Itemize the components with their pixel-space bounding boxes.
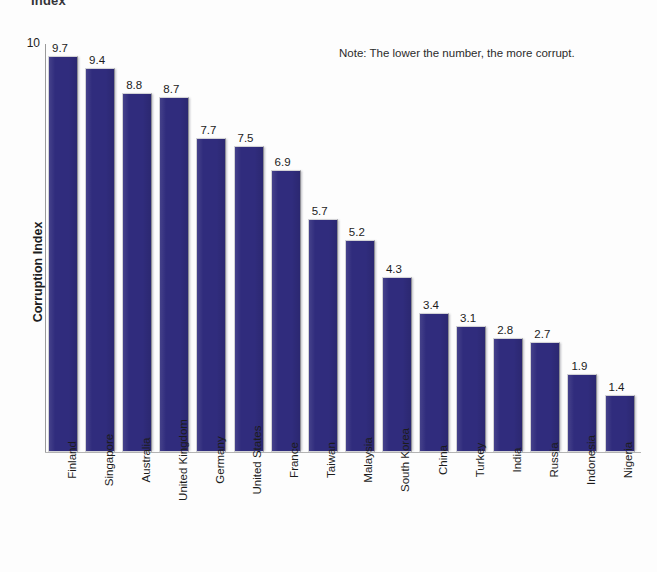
x-axis-label: Finland <box>66 441 78 479</box>
bar-slot: 3.4 <box>418 44 455 452</box>
x-axis-label: China <box>437 445 449 475</box>
bar-value-label: 1.4 <box>600 381 634 393</box>
bar-slot: 6.9 <box>270 44 307 452</box>
corruption-index-bar-chart: Index Note: The lower the number, the mo… <box>0 0 657 572</box>
bar-slot: 5.7 <box>307 44 344 452</box>
bar-shading <box>346 241 374 451</box>
y-axis-line <box>45 44 46 453</box>
x-axis-label-slot: Taiwan <box>307 456 344 572</box>
bar-slot: 5.2 <box>344 44 381 452</box>
chart-title: Index <box>31 0 66 8</box>
bar-value-label: 1.9 <box>562 360 596 372</box>
bar-value-label: 8.8 <box>117 79 151 91</box>
x-axis-label: United Kingdom <box>177 419 189 501</box>
bar[interactable] <box>122 93 152 452</box>
x-axis-label-slot: Malaysia <box>344 456 381 572</box>
bar-shading <box>309 220 337 451</box>
x-axis-label-slot: India <box>492 456 529 572</box>
bar-shading <box>197 139 225 451</box>
x-axis-label-slot: Finland <box>47 456 84 572</box>
bar-value-label: 2.8 <box>488 324 522 336</box>
x-axis-label: United States <box>251 425 263 494</box>
bar-shading <box>531 343 559 451</box>
bar-slot: 7.5 <box>233 44 270 452</box>
bar-slot: 3.1 <box>455 44 492 452</box>
x-axis-label: Germany <box>214 436 226 483</box>
x-axis-label-slot: Singapore <box>84 456 121 572</box>
x-axis-label: France <box>288 442 300 478</box>
x-axis-label: Australia <box>140 438 152 483</box>
bar-shading <box>235 147 263 451</box>
bar-shading <box>272 171 300 451</box>
bar-value-label: 7.5 <box>229 132 263 144</box>
bar-slot: 1.9 <box>566 44 603 452</box>
bar-value-label: 6.9 <box>266 156 300 168</box>
x-axis-label: Nigeria <box>622 442 634 478</box>
bar-value-label: 3.1 <box>451 312 485 324</box>
bar-slot: 1.4 <box>604 44 641 452</box>
x-axis-labels: FinlandSingaporeAustraliaUnited KingdomG… <box>47 456 641 572</box>
x-axis-label-slot: France <box>270 456 307 572</box>
bar-shading <box>123 94 151 451</box>
bar-shading <box>49 57 77 451</box>
bar-value-label: 5.2 <box>340 226 374 238</box>
bar-shading <box>494 339 522 451</box>
x-axis-label: Taiwan <box>325 442 337 478</box>
bar-slot: 8.8 <box>121 44 158 452</box>
bar-shading <box>420 314 448 451</box>
bar[interactable] <box>196 138 226 452</box>
bar-value-label: 9.4 <box>80 54 114 66</box>
bar-slot: 9.4 <box>84 44 121 452</box>
bar[interactable] <box>456 326 486 452</box>
bar[interactable] <box>308 219 338 452</box>
bar-shading <box>383 278 411 451</box>
bar-slot: 4.3 <box>381 44 418 452</box>
x-axis-label: Russia <box>548 442 560 477</box>
bar-value-label: 2.7 <box>525 328 559 340</box>
bar-value-label: 7.7 <box>191 124 225 136</box>
bar[interactable] <box>530 342 560 452</box>
bar[interactable] <box>345 240 375 452</box>
x-axis-label: India <box>511 448 523 473</box>
bar-shading <box>457 327 485 451</box>
x-axis-label: Turkey <box>474 443 486 478</box>
bar[interactable] <box>419 313 449 452</box>
x-axis-label-slot: Germany <box>195 456 232 572</box>
bar[interactable] <box>85 68 115 452</box>
x-axis-label-slot: United Kingdom <box>158 456 195 572</box>
x-axis-label: South Korea <box>399 428 411 492</box>
bar-slot: 2.7 <box>529 44 566 452</box>
x-axis-label-slot: China <box>418 456 455 572</box>
bar[interactable] <box>234 146 264 452</box>
x-axis-label-slot: South Korea <box>381 456 418 572</box>
bar[interactable] <box>382 277 412 452</box>
x-axis-label-slot: Russia <box>529 456 566 572</box>
x-axis-label-slot: Indonesia <box>566 456 603 572</box>
x-axis-label: Malaysia <box>362 437 374 482</box>
plot-area: 9.79.48.88.77.77.56.95.75.24.33.43.12.82… <box>47 44 641 452</box>
y-axis-tick-10: 10 <box>20 36 40 50</box>
x-axis-label: Singapore <box>103 434 115 486</box>
bar[interactable] <box>48 56 78 452</box>
x-axis-label-slot: United States <box>233 456 270 572</box>
bar-slot: 2.8 <box>492 44 529 452</box>
bar-slot: 9.7 <box>47 44 84 452</box>
x-axis-label-slot: Turkey <box>455 456 492 572</box>
x-axis-label-slot: Nigeria <box>604 456 641 572</box>
bar-value-label: 3.4 <box>414 299 448 311</box>
bar-slot: 7.7 <box>195 44 232 452</box>
bar-value-label: 4.3 <box>377 263 411 275</box>
y-axis-title: Corruption Index <box>31 202 45 342</box>
bar-value-label: 9.7 <box>43 42 77 54</box>
bar[interactable] <box>493 338 523 452</box>
x-axis-label: Indonesia <box>585 435 597 485</box>
bar-value-label: 8.7 <box>154 83 188 95</box>
bar-shading <box>86 69 114 451</box>
bar[interactable] <box>159 97 189 452</box>
bar-shading <box>160 98 188 451</box>
x-axis-label-slot: Australia <box>121 456 158 572</box>
bar[interactable] <box>271 170 301 452</box>
bar-slot: 8.7 <box>158 44 195 452</box>
bar-value-label: 5.7 <box>303 205 337 217</box>
